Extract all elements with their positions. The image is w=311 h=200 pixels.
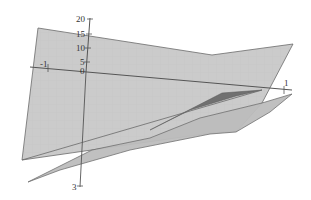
plot-canvas: 20 15 10 5 0 -1 1 3 [0,0,311,200]
y-label-3: 3 [72,182,77,192]
z-label-0: 0 [80,66,85,76]
x-label-pos1: 1 [284,78,289,88]
z-label-20: 20 [76,14,86,24]
x-label-neg1: -1 [40,59,48,69]
z-label-10: 10 [76,43,86,53]
z-label-15: 15 [76,29,86,39]
